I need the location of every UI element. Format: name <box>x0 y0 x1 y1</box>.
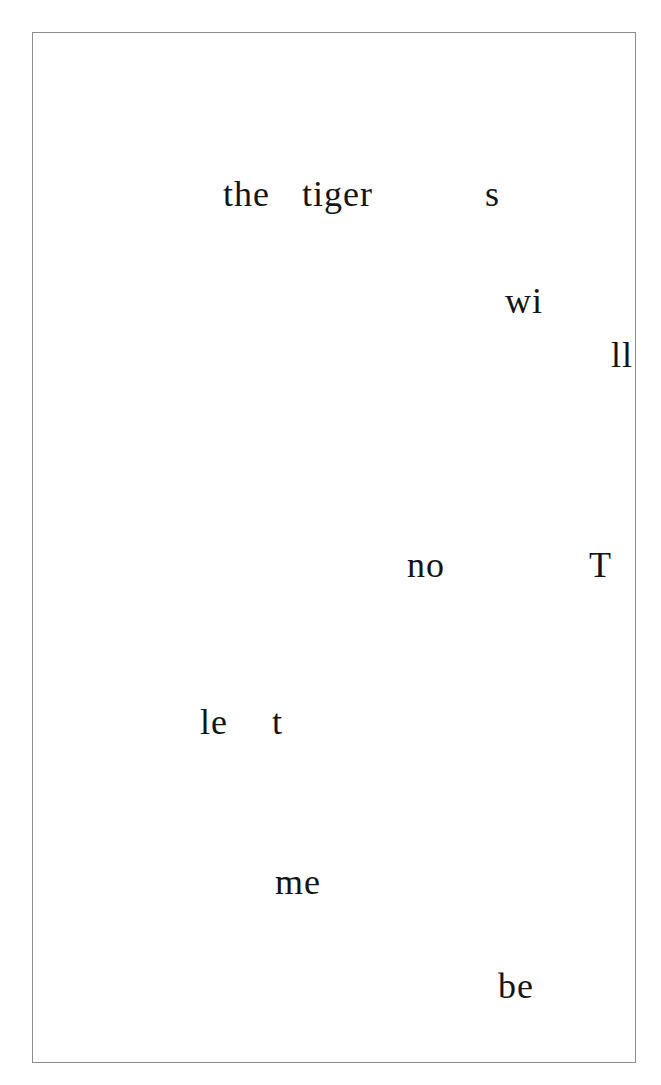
fragment-ll: ll <box>611 337 633 373</box>
word-the: the <box>223 176 270 212</box>
word-be: be <box>498 968 534 1004</box>
fragment-wi: wi <box>505 283 543 319</box>
fragment-le: le <box>200 704 228 740</box>
word-no: no <box>407 547 445 583</box>
word-me: me <box>275 864 321 900</box>
word-tiger: tiger <box>302 176 373 212</box>
fragment-T: T <box>589 547 612 583</box>
fragment-t: t <box>272 704 283 740</box>
fragment-s: s <box>485 176 500 212</box>
